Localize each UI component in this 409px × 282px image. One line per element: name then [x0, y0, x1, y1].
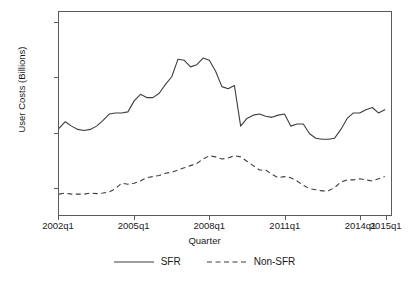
- y-tick-mark: [54, 188, 58, 189]
- y-axis-title: User Costs (Billions): [16, 5, 27, 175]
- x-tick-label: 2002q1: [28, 220, 88, 231]
- x-tick-label: 2008q1: [179, 220, 239, 231]
- x-tick-mark: [386, 216, 387, 220]
- legend-item-non-sfr: Non-SFR: [207, 256, 296, 267]
- x-tick-mark: [285, 216, 286, 220]
- legend-swatch-dashed: [207, 257, 247, 267]
- y-tick-mark: [54, 133, 58, 134]
- x-tick-mark: [209, 216, 210, 220]
- plot-canvas: [59, 12, 391, 215]
- x-tick-mark: [58, 216, 59, 220]
- chart-legend: SFR Non-SFR: [0, 256, 409, 267]
- legend-item-sfr: SFR: [114, 256, 181, 267]
- x-tick-label: 2011q1: [255, 220, 315, 231]
- y-tick-mark: [54, 77, 58, 78]
- legend-swatch-solid: [114, 257, 154, 267]
- x-axis-title: Quarter: [0, 235, 409, 246]
- legend-label-non-sfr: Non-SFR: [254, 256, 296, 267]
- legend-label-sfr: SFR: [161, 256, 181, 267]
- chart-figure: User Costs (Billions) 500100015002000200…: [0, 0, 409, 282]
- plot-area: [58, 11, 392, 216]
- x-tick-mark: [134, 216, 135, 220]
- series-line-sfr: [59, 58, 385, 139]
- y-tick-mark: [54, 22, 58, 23]
- series-line-non-sfr: [59, 156, 385, 194]
- x-tick-label: 2005q1: [104, 220, 164, 231]
- x-tick-label: 2015q1: [356, 220, 409, 231]
